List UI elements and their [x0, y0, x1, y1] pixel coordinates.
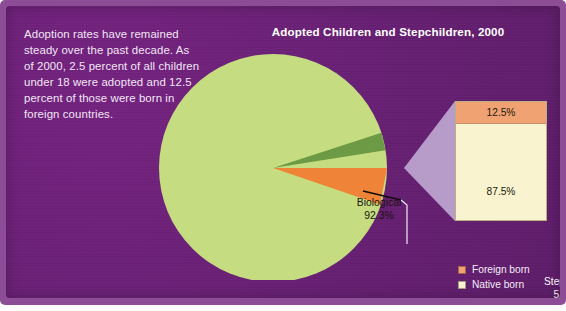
pie-label-stepchild: Stepchild 5.2% — [528, 275, 560, 298]
pie-label-adopted-name: Adopted — [557, 201, 560, 214]
pie-label-adopted: Adopted 2.5% — [557, 201, 560, 227]
legend-swatch-foreign-born — [458, 266, 466, 274]
legend-item-native-born: Native born — [458, 279, 530, 290]
bar-value-native-born: 87.5% — [456, 186, 546, 197]
figure-root: Adoption rates have remained steady over… — [0, 0, 566, 311]
bar-value-foreign-born: 12.5% — [456, 107, 546, 118]
pie-label-biological: Biological 92.3% — [336, 196, 422, 223]
pie-label-biological-value: 92.3% — [336, 209, 422, 222]
chart-title: Adopted Children and Stepchildren, 2000 — [238, 25, 538, 38]
legend-label-native-born: Native born — [472, 279, 524, 290]
legend-item-foreign-born: Foreign born — [458, 264, 530, 275]
pie-label-stepchild-value: 5.2% — [528, 288, 560, 298]
legend: Foreign born Native born — [458, 264, 530, 294]
pie-chart: Biological 92.3% Stepchild 5.2% Adopted … — [158, 48, 420, 280]
chart-panel: Adoption rates have remained steady over… — [6, 6, 560, 298]
legend-swatch-native-born — [458, 281, 466, 289]
pie-label-stepchild-name: Stepchild — [528, 275, 560, 288]
pie-slice-biological — [159, 54, 387, 280]
legend-label-foreign-born: Foreign born — [472, 264, 530, 275]
stacked-bar-native-born: 12.5% 87.5% — [455, 101, 547, 221]
pie-label-adopted-value: 2.5% — [557, 214, 560, 227]
pie-label-biological-name: Biological — [336, 196, 422, 209]
